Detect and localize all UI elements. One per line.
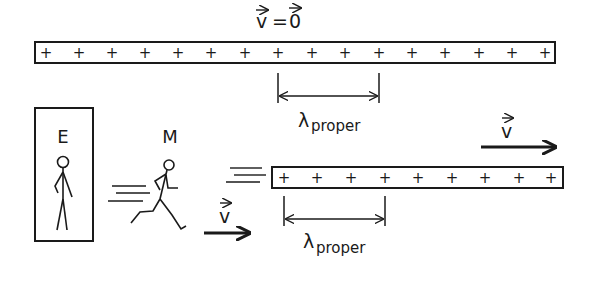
charge-plus: + [473, 44, 486, 62]
charge-plus: + [412, 169, 425, 187]
charge-plus: + [272, 44, 285, 62]
lambda-symbol: λ [303, 230, 314, 252]
rod-velocity: v [481, 118, 554, 147]
zero-symbol: 0 [289, 10, 301, 32]
charge-plus: + [306, 44, 319, 62]
speed-lines-icon [226, 168, 266, 182]
charge-plus: + [73, 44, 86, 62]
equals-sign: = [272, 10, 288, 32]
charge-plus: + [545, 169, 558, 187]
charge-plus: + [278, 169, 291, 187]
charge-plus: + [40, 44, 53, 62]
charge-plus: + [139, 44, 152, 62]
v-symbol: v [501, 120, 512, 142]
charge-plus: + [539, 44, 552, 62]
charge-plus: + [205, 44, 218, 62]
observer-m-label: M [162, 126, 178, 147]
standing-person-icon [55, 157, 72, 231]
lambda-subscript: proper [311, 117, 361, 135]
charge-plus: + [239, 44, 252, 62]
charge-plus: + [373, 44, 386, 62]
v-symbol: v [256, 10, 267, 32]
charge-plus: + [339, 44, 352, 62]
bottom-spacing-bracket: λ proper [284, 196, 385, 257]
lambda-symbol: λ [298, 109, 309, 131]
top-velocity-label: v = 0 [256, 8, 301, 32]
v-symbol: v [219, 205, 230, 227]
charge-plus: + [106, 44, 119, 62]
charge-plus: + [345, 169, 358, 187]
charge-plus: + [311, 169, 324, 187]
running-person-icon [131, 160, 186, 229]
top-rod: + + + + + + + + + + + + + + + + [35, 42, 555, 63]
charge-plus: + [439, 44, 452, 62]
charge-plus: + [513, 169, 526, 187]
observer-m: M [108, 126, 186, 229]
charge-plus: + [479, 169, 492, 187]
charge-plus: + [406, 44, 419, 62]
observer-e-label: E [57, 126, 68, 147]
lambda-subscript: proper [316, 239, 366, 257]
charge-plus: + [446, 169, 459, 187]
speed-lines-icon [108, 186, 150, 201]
observer-e: E [35, 108, 93, 241]
top-spacing-bracket: λ proper [278, 73, 379, 135]
figure: v = 0 + + + + + + + + + + + + + + + + [0, 0, 599, 294]
charge-plus: + [506, 44, 519, 62]
charge-plus: + [379, 169, 392, 187]
charge-plus: + [172, 44, 185, 62]
bottom-rod: + + + + + + + + + [272, 167, 563, 188]
observer-m-velocity: v [204, 203, 248, 233]
